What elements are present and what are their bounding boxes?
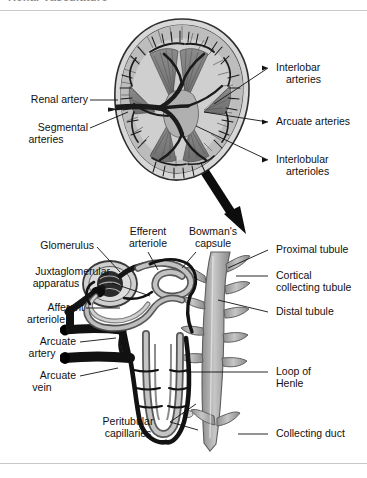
label-bowmans-capsule-line1: Bowman's xyxy=(174,226,252,238)
page-header-title: Renal Vasculature xyxy=(8,0,108,3)
label-juxtaglomerular-apparatus-line2: apparatus xyxy=(2,278,110,290)
label-arcuate-artery-line1: Arcuate xyxy=(8,336,76,348)
label-interlobular-arterioles-line1: Interlobular xyxy=(276,154,329,166)
label-peritubular-capillaries-line1: Peritubular xyxy=(88,416,168,428)
label-segmental-arteries-line1: Segmental xyxy=(4,122,88,134)
label-juxtaglomerular-apparatus-line1: Juxtaglomerular xyxy=(2,266,110,278)
label-renal-artery: Renal artery xyxy=(4,94,88,106)
label-arcuate-artery-line2: artery xyxy=(8,348,76,360)
label-distal-tubule: Distal tubule xyxy=(276,306,334,318)
page-header: Renal Vasculature xyxy=(0,0,367,7)
label-afferent-arteriole-line1: Afferent xyxy=(8,302,84,314)
label-loop-of-henle-line1: Loop of xyxy=(276,366,311,378)
label-afferent-arteriole-line2: arteriole xyxy=(8,314,84,326)
label-bowmans-capsule-line2: capsule xyxy=(174,238,252,250)
proximal-tubule xyxy=(138,263,191,296)
label-interlobular-arterioles-line2: arterioles xyxy=(286,166,329,178)
label-arcuate-vein-line2: vein xyxy=(8,382,76,394)
kidney-cross-section-figure xyxy=(108,16,256,188)
label-proximal-tubule: Proximal tubule xyxy=(276,244,348,256)
kidney-illustration xyxy=(108,16,256,188)
label-glomerulus: Glomerulus xyxy=(8,240,94,252)
label-collecting-duct: Collecting duct xyxy=(276,428,345,440)
header-divider xyxy=(0,10,367,11)
label-segmental-arteries-line2: arteries xyxy=(4,134,88,146)
label-arcuate-arteries: Arcuate arteries xyxy=(276,116,350,128)
label-loop-of-henle-line2: Henle xyxy=(276,378,303,390)
footer-divider xyxy=(0,463,367,464)
label-peritubular-capillaries-line2: capillaries xyxy=(88,428,168,440)
label-interlobar-arteries-line1: Interlobar xyxy=(276,62,320,74)
label-cortical-collecting-tubule-line2: collecting tubule xyxy=(276,282,351,294)
label-arcuate-vein-line1: Arcuate xyxy=(8,370,76,382)
label-interlobar-arteries-line2: arteries xyxy=(286,74,321,86)
label-cortical-collecting-tubule-line1: Cortical xyxy=(276,270,312,282)
leader-arrowheads xyxy=(262,65,268,162)
